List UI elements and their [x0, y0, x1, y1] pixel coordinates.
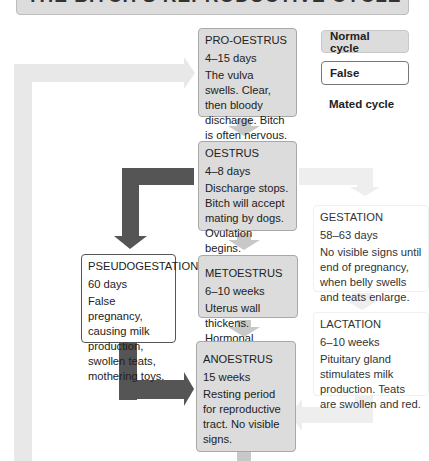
stage-description: False pregnancy, causing milk production… [88, 294, 169, 384]
stage-duration: 58–63 days [320, 228, 422, 243]
legend-normal-cycle: Normal cycle [321, 30, 409, 53]
legend-false-label: False [330, 67, 359, 79]
stage-name: PSEUDOGESTATION [88, 259, 169, 274]
stage-name: ANOESTRUS [203, 352, 289, 367]
stage-name: LACTATION [320, 317, 422, 332]
stage-duration: 6–10 weeks [205, 284, 291, 299]
legend-normal-label: Normal cycle [330, 30, 400, 54]
stage-name: PRO-OESTRUS [205, 33, 290, 48]
stage-pro-oestrus: PRO-OESTRUS 4–15 days The vulva swells. … [198, 28, 297, 117]
stage-description: The vulva swells. Clear, then bloody dis… [205, 68, 290, 143]
stage-name: METOESTRUS [205, 266, 291, 281]
stage-description: Discharge stops. Bitch will accept matin… [205, 181, 290, 256]
stage-duration: 6–10 weeks [320, 335, 422, 350]
stage-description: No visible signs until end of pregnancy,… [320, 245, 422, 305]
stage-description: Resting period for reproductive tract. N… [203, 387, 289, 447]
stage-duration: 60 days [88, 277, 169, 292]
legend-mated-cycle: Mated cycle [321, 92, 409, 116]
stage-anoestrus: ANOESTRUS 15 weeks Resting period for re… [196, 341, 296, 452]
stage-duration: 4–8 days [205, 164, 290, 179]
stage-duration: 4–15 days [205, 51, 290, 66]
stage-oestrus: OESTRUS 4–8 days Discharge stops. Bitch … [198, 141, 297, 231]
stage-duration: 15 weeks [203, 370, 289, 385]
stage-name: OESTRUS [205, 146, 290, 161]
stage-pseudogestation: PSEUDOGESTATION 60 days False pregnancy,… [81, 254, 176, 343]
stage-gestation: GESTATION 58–63 days No visible signs un… [313, 205, 429, 292]
legend-false-cycle: False [321, 61, 409, 85]
stage-name: GESTATION [320, 210, 422, 225]
stage-metoestrus: METOESTRUS 6–10 weeks Uterus wall thicke… [198, 255, 298, 318]
stage-description: Pituitary gland stimulates milk producti… [320, 352, 422, 412]
legend-mated-label: Mated cycle [329, 98, 394, 110]
stage-lactation: LACTATION 6–10 weeks Pituitary gland sti… [313, 312, 429, 396]
